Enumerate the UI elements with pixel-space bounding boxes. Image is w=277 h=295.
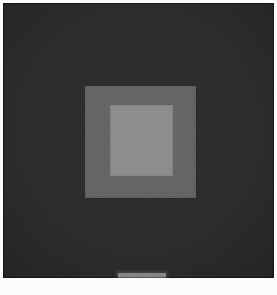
plate-caption — [3, 281, 274, 293]
artwork-plate — [3, 3, 274, 278]
page-margin-left — [0, 0, 3, 295]
inner-field-square — [110, 105, 173, 176]
page-margin-right — [274, 0, 277, 295]
page — [0, 0, 277, 295]
page-margin-top — [0, 0, 277, 3]
inner-field-edge-softness — [110, 105, 173, 176]
